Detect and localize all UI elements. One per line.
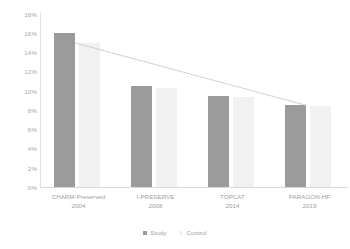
- x-axis-category: CHARM-Preserved 2004: [40, 192, 117, 210]
- bar-control[interactable]: [233, 97, 254, 187]
- bar-group: [271, 14, 348, 187]
- legend-label: Control: [186, 229, 206, 236]
- category-year: 2004: [40, 201, 117, 210]
- bar-study[interactable]: [285, 105, 306, 187]
- y-axis-tick: 16%: [3, 30, 37, 37]
- legend-item-control[interactable]: Control: [179, 229, 206, 236]
- y-axis-tick: 10%: [3, 88, 37, 95]
- category-year: 2008: [117, 201, 194, 210]
- bar-control[interactable]: [156, 88, 177, 187]
- x-axis-category: PARAGON-HF 2019: [271, 192, 348, 210]
- category-name: TOPCAT: [194, 192, 271, 201]
- bar-group: [117, 14, 194, 187]
- x-axis-line: [40, 187, 348, 188]
- plot-area: [40, 14, 348, 187]
- x-axis-category: TOPCAT 2014: [194, 192, 271, 210]
- y-axis-tick: 12%: [3, 68, 37, 75]
- legend-swatch-icon: [143, 231, 147, 235]
- chart-container: 18% 16% 14% 12% 10% 8% 6% 4% 2% 0%: [0, 0, 350, 249]
- legend-item-study[interactable]: Study: [143, 229, 166, 236]
- bar-study[interactable]: [131, 86, 152, 187]
- y-axis-tick: 0%: [3, 184, 37, 191]
- bar-study[interactable]: [208, 96, 229, 187]
- bar-control[interactable]: [79, 43, 100, 187]
- category-name: I-PRESERVE: [117, 192, 194, 201]
- x-axis-category: I-PRESERVE 2008: [117, 192, 194, 210]
- legend-label: Study: [150, 229, 166, 236]
- y-axis-tick: 2%: [3, 165, 37, 172]
- y-axis-tick: 4%: [3, 145, 37, 152]
- y-axis-tick: 14%: [3, 49, 37, 56]
- y-axis-labels: 18% 16% 14% 12% 10% 8% 6% 4% 2% 0%: [0, 0, 37, 249]
- y-axis-tick: 8%: [3, 107, 37, 114]
- bar-study[interactable]: [54, 33, 75, 187]
- category-name: PARAGON-HF: [271, 192, 348, 201]
- legend-swatch-icon: [179, 231, 183, 235]
- y-axis-tick: 18%: [3, 11, 37, 18]
- category-year: 2019: [271, 201, 348, 210]
- bar-group: [40, 14, 117, 187]
- category-name: CHARM-Preserved: [40, 192, 117, 201]
- bar-group: [194, 14, 271, 187]
- bar-control[interactable]: [310, 106, 331, 187]
- chart-legend: Study Control: [0, 229, 350, 236]
- category-year: 2014: [194, 201, 271, 210]
- y-axis-tick: 6%: [3, 126, 37, 133]
